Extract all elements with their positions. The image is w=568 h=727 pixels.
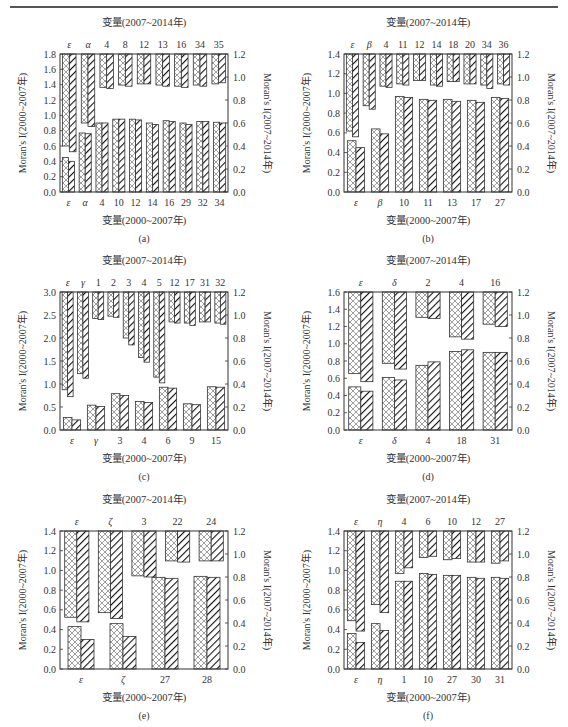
bar-top (100, 54, 107, 87)
bar-top (113, 292, 118, 317)
top-category-label: ε (66, 277, 70, 288)
svg-text:0.2: 0.2 (44, 644, 57, 655)
svg-text:0.4: 0.4 (517, 379, 530, 390)
bar-top (88, 54, 95, 126)
svg-text:0.4: 0.4 (328, 624, 341, 635)
top-category-label: 14 (431, 39, 441, 50)
svg-text:1.0: 1.0 (328, 88, 341, 99)
bottom-category-label: 15 (211, 435, 221, 446)
top-category-label: 2 (111, 277, 116, 288)
bottom-category-label: 31 (490, 435, 500, 446)
bar-top (403, 54, 409, 85)
top-category-label: 16 (490, 277, 500, 288)
bar-top (77, 531, 89, 622)
bottom-category-label: δ (392, 435, 397, 446)
bar-bottom (500, 98, 509, 192)
bottom-axis-title: 变量(2000~2007年) (102, 452, 187, 465)
svg-text:0.0: 0.0 (233, 187, 246, 198)
svg-text:0.8: 0.8 (517, 333, 530, 344)
bar-top (69, 54, 76, 152)
svg-text:1.4: 1.4 (44, 79, 57, 90)
top-category-label: 20 (465, 39, 475, 50)
svg-text:1.2: 1.2 (233, 49, 246, 60)
bar-top (346, 54, 352, 131)
svg-text:0.0: 0.0 (44, 664, 57, 675)
svg-text:0.8: 0.8 (328, 108, 341, 119)
bottom-category-label: 4 (142, 435, 147, 446)
bottom-category-label: γ (94, 435, 99, 446)
svg-text:0.4: 0.4 (233, 618, 246, 629)
bottom-category-label: 6 (166, 435, 171, 446)
bottom-axis-title: 变量(2000~2007年) (386, 214, 471, 227)
bottom-category-label: 9 (190, 435, 195, 446)
bar-bottom (462, 350, 474, 430)
svg-text:0.8: 0.8 (233, 95, 246, 106)
bar-bottom (180, 123, 186, 192)
top-category-label: 10 (447, 516, 457, 527)
bar-top (144, 54, 151, 84)
bar-top (476, 531, 485, 562)
svg-text:1.0: 1.0 (44, 565, 57, 576)
left-axis-title: Moran's I(2000~2007年) (300, 311, 313, 411)
bottom-axis-title: 变量(2000~2007年) (386, 691, 471, 704)
bar-bottom (96, 407, 105, 430)
top-category-label: 22 (173, 516, 183, 527)
svg-text:0.4: 0.4 (517, 141, 530, 152)
bar-bottom (207, 387, 216, 430)
bar-bottom (159, 387, 168, 430)
top-category-label: 36 (499, 39, 509, 50)
bar-bottom (136, 120, 142, 192)
bar-top (467, 531, 476, 562)
bottom-category-label: 10 (423, 674, 433, 685)
svg-text:0.0: 0.0 (233, 425, 246, 436)
bar-bottom (146, 123, 152, 192)
top-category-label: 4 (384, 39, 389, 50)
bottom-category-label: 12 (131, 197, 141, 208)
panel-caption: (f) (423, 710, 433, 722)
bar-bottom (130, 119, 136, 192)
bar-top (462, 292, 474, 339)
bar-top (386, 54, 392, 87)
bar-top (349, 292, 361, 374)
chart-svg: 变量(2007~2014年)变量(2000~2007年)(a)Moran's I… (0, 12, 284, 250)
bar-bottom (450, 352, 462, 430)
bottom-category-label: 13 (447, 197, 457, 208)
bar-top (404, 531, 413, 568)
svg-text:0.6: 0.6 (233, 356, 246, 367)
top-category-label: 12 (139, 39, 149, 50)
top-category-label: 4 (104, 39, 109, 50)
svg-text:1.6: 1.6 (44, 64, 57, 75)
top-axis-title: 变量(2007~2014年) (386, 493, 471, 506)
bar-bottom (152, 125, 158, 192)
bar-top (481, 54, 487, 85)
bar-top (487, 54, 493, 89)
bottom-category-label: 18 (457, 435, 467, 446)
bottom-axis-title: 变量(2000~2007年) (102, 691, 187, 704)
top-category-label: 34 (482, 39, 492, 50)
bar-bottom (419, 99, 428, 192)
bar-top (107, 54, 114, 89)
top-axis-title: 变量(2007~2014年) (102, 493, 187, 506)
svg-text:0.2: 0.2 (233, 641, 246, 652)
bottom-category-label: ε (354, 674, 358, 685)
bar-top (200, 54, 207, 86)
svg-text:1.0: 1.0 (328, 565, 341, 576)
bar-top (495, 292, 507, 327)
page-header-rule (10, 6, 558, 8)
svg-text:1.4: 1.4 (328, 526, 341, 537)
bar-bottom (476, 578, 485, 669)
bar-bottom (165, 578, 178, 669)
top-category-label: 8 (123, 39, 128, 50)
svg-text:0.0: 0.0 (517, 664, 530, 675)
svg-text:0.5: 0.5 (44, 402, 57, 413)
svg-text:0.2: 0.2 (517, 402, 530, 413)
chart-panel-d: 变量(2007~2014年)变量(2000~2007年)(d)Moran's I… (284, 250, 568, 488)
bottom-axis-title: 变量(2000~2007年) (102, 214, 187, 227)
top-category-label: 35 (214, 39, 224, 50)
top-category-label: ε (359, 277, 363, 288)
top-category-label: 13 (158, 39, 168, 50)
right-axis-title: Moran's I(2007~2014年) (545, 550, 558, 650)
bar-top (139, 292, 144, 358)
bar-top (166, 531, 178, 561)
right-axis-title: Moran's I(2007~2014年) (261, 311, 274, 411)
